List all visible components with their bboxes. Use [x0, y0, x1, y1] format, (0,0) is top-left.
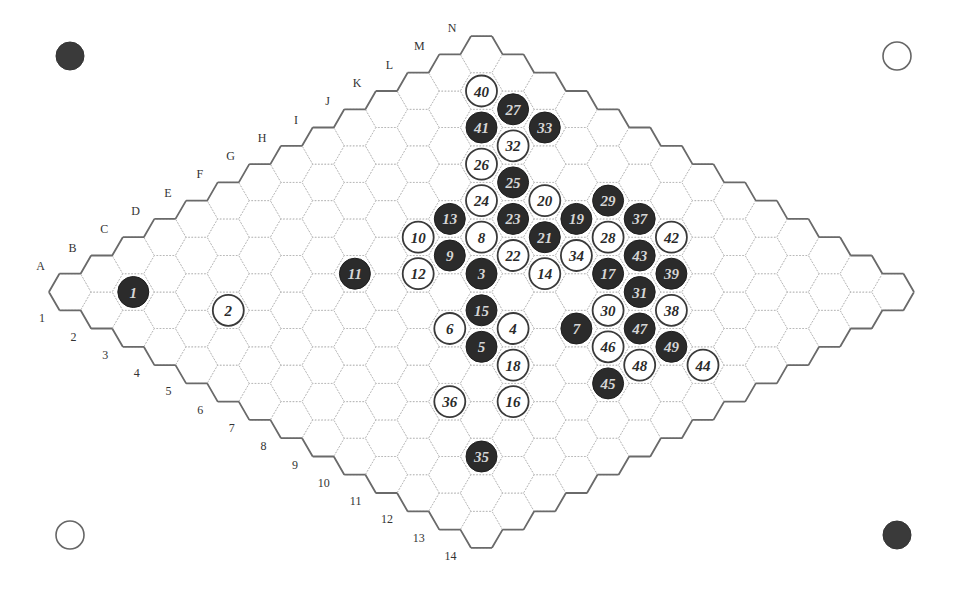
stone-white: 16 [498, 386, 529, 417]
stone-black: 13 [434, 203, 465, 234]
stone-black: 15 [466, 295, 497, 326]
stone-black: 35 [466, 441, 497, 472]
move-number: 44 [695, 358, 712, 374]
stone-white: 24 [466, 185, 497, 216]
row-label: 3 [102, 348, 108, 362]
stone-black: 25 [498, 167, 529, 198]
move-number: 11 [348, 266, 362, 282]
stone-white: 44 [688, 350, 719, 381]
move-number: 2 [224, 303, 233, 319]
move-number: 47 [631, 321, 648, 337]
move-number: 30 [600, 303, 617, 319]
stone-black: 43 [624, 240, 655, 271]
row-label: 10 [318, 476, 330, 490]
move-number: 8 [478, 230, 486, 246]
row-label: 2 [71, 330, 77, 344]
column-label: J [325, 94, 330, 108]
stone-black: 47 [624, 313, 655, 344]
stone-white: 34 [561, 240, 592, 271]
stone-white: 48 [624, 350, 655, 381]
row-label: 1 [39, 311, 45, 325]
move-number: 13 [442, 211, 458, 227]
stone-black: 29 [593, 185, 624, 216]
move-number: 4 [508, 321, 517, 337]
stone-black: 9 [434, 240, 465, 271]
corner-marker-white [883, 42, 911, 70]
move-number: 6 [446, 321, 454, 337]
move-number: 46 [600, 339, 617, 355]
move-number: 18 [506, 358, 522, 374]
move-number: 27 [505, 102, 522, 118]
column-label: N [448, 21, 457, 35]
stone-white: 4 [498, 313, 529, 344]
stone-black: 23 [498, 203, 529, 234]
stone-black: 11 [339, 258, 370, 289]
move-number: 37 [631, 211, 648, 227]
move-number: 42 [663, 230, 680, 246]
stone-black: 7 [561, 313, 592, 344]
column-label: D [131, 204, 140, 218]
column-label: F [197, 167, 204, 181]
move-number: 25 [505, 175, 522, 191]
move-number: 12 [411, 266, 427, 282]
stone-white: 40 [466, 76, 497, 107]
move-number: 14 [537, 266, 553, 282]
move-number: 1 [130, 285, 138, 301]
stone-black: 39 [656, 258, 687, 289]
move-number: 43 [631, 248, 648, 264]
stone-white: 6 [434, 313, 465, 344]
move-number: 10 [411, 230, 427, 246]
move-number: 48 [631, 358, 648, 374]
row-label: 13 [413, 531, 425, 545]
column-label: B [69, 241, 77, 255]
column-label: H [258, 131, 267, 145]
corner-marker-white [56, 521, 84, 549]
row-label: 11 [350, 494, 362, 508]
column-label: G [226, 149, 235, 163]
stone-black: 49 [656, 331, 687, 362]
move-number: 28 [600, 230, 617, 246]
stone-white: 26 [466, 149, 497, 180]
column-label: L [386, 58, 393, 72]
stone-white: 2 [213, 295, 244, 326]
column-label: C [100, 222, 108, 236]
move-number: 22 [505, 248, 522, 264]
move-number: 26 [473, 157, 490, 173]
stone-black: 3 [466, 258, 497, 289]
column-label: A [36, 259, 45, 273]
move-number: 33 [536, 120, 553, 136]
stone-white: 42 [656, 222, 687, 253]
stone-white: 10 [403, 222, 434, 253]
row-label: 5 [166, 384, 172, 398]
stone-black: 41 [466, 112, 497, 143]
stone-white: 20 [529, 185, 560, 216]
stone-white: 36 [434, 386, 465, 417]
move-number: 19 [569, 211, 585, 227]
move-number: 7 [573, 321, 581, 337]
hex-board[interactable]: ABCDEFGHIJKLMN1234567891011121314 123456… [0, 0, 967, 589]
stone-white: 30 [593, 295, 624, 326]
move-number: 15 [474, 303, 490, 319]
stone-black: 1 [118, 277, 149, 308]
column-label: I [294, 113, 298, 127]
move-number: 21 [536, 230, 552, 246]
move-number: 29 [600, 193, 617, 209]
row-label: 7 [229, 421, 235, 435]
row-label: 14 [444, 549, 456, 563]
column-label: E [164, 186, 171, 200]
stone-white: 8 [466, 222, 497, 253]
move-number: 34 [568, 248, 585, 264]
stone-black: 37 [624, 203, 655, 234]
stone-black: 21 [529, 222, 560, 253]
stone-black: 31 [624, 277, 655, 308]
move-number: 32 [505, 138, 522, 154]
stone-white: 46 [593, 331, 624, 362]
row-label: 9 [292, 458, 298, 472]
stone-black: 17 [593, 258, 624, 289]
move-number: 35 [473, 449, 490, 465]
move-number: 24 [473, 193, 490, 209]
move-number: 39 [663, 266, 680, 282]
move-number: 40 [473, 84, 490, 100]
stone-white: 12 [403, 258, 434, 289]
move-number: 17 [601, 266, 617, 282]
